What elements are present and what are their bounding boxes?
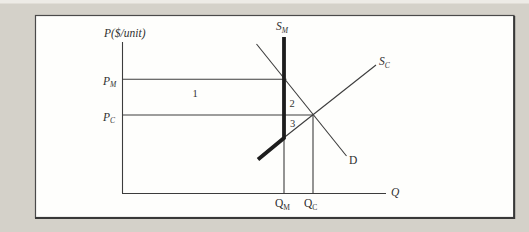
x-axis-label: Q <box>391 186 400 198</box>
region-2-label: 2 <box>289 98 294 109</box>
price-competitive-label-main: P <box>102 111 110 123</box>
y-axis-label: P($/unit) <box>103 27 146 40</box>
quantity-competitive-label-sub: C <box>312 203 317 212</box>
demand-label: D <box>349 154 357 166</box>
monopoly-supply-label-sub: M <box>281 26 289 35</box>
price-monopoly-label-sub: M <box>109 80 117 89</box>
quantity-monopoly-label-sub: M <box>283 203 290 212</box>
textbook-figure: P($/unit) Q SM SC D PM PC QM QC 1 2 3 <box>0 0 529 232</box>
region-3-label: 3 <box>290 118 295 129</box>
price-monopoly-label-main: P <box>102 75 110 87</box>
page-top-strip <box>0 0 529 4</box>
economics-diagram: P($/unit) Q SM SC D PM PC QM QC 1 2 3 <box>0 0 529 232</box>
region-1-label: 1 <box>192 88 197 99</box>
